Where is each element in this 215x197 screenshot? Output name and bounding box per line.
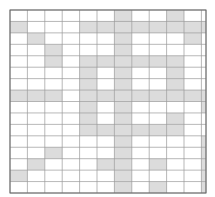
filled-cell	[167, 21, 184, 32]
filled-cell	[45, 147, 62, 158]
filled-cell	[149, 56, 166, 67]
filled-cell	[114, 102, 131, 113]
filled-cell	[132, 124, 149, 135]
filled-cell	[167, 10, 184, 21]
filled-cell	[97, 159, 114, 170]
filled-cell	[80, 102, 97, 113]
filled-cell	[201, 182, 206, 193]
filled-cell	[167, 113, 184, 124]
filled-cell	[149, 182, 166, 193]
puzzle-grid	[0, 0, 215, 197]
filled-cell	[45, 90, 62, 101]
filled-cell	[80, 56, 97, 67]
filled-cell	[114, 44, 131, 55]
filled-cell	[114, 159, 131, 170]
filled-cell	[27, 90, 44, 101]
filled-cell	[132, 56, 149, 67]
filled-cell	[114, 33, 131, 44]
filled-cell	[149, 21, 166, 32]
filled-cell	[80, 79, 97, 90]
filled-cell	[45, 56, 62, 67]
filled-cell	[149, 124, 166, 135]
filled-cell	[80, 90, 97, 101]
filled-cell	[149, 159, 166, 170]
filled-cell	[167, 124, 184, 135]
filled-cell	[10, 90, 27, 101]
filled-cell	[167, 67, 184, 78]
filled-cell	[114, 124, 131, 135]
filled-cell	[114, 170, 131, 181]
filled-cell	[167, 56, 184, 67]
filled-cell	[132, 90, 149, 101]
filled-cell	[201, 147, 206, 158]
filled-cell	[114, 182, 131, 193]
filled-cell	[114, 21, 131, 32]
filled-cell	[27, 159, 44, 170]
filled-cell	[80, 124, 97, 135]
filled-cell	[201, 159, 206, 170]
filled-cell	[97, 90, 114, 101]
filled-cell	[201, 170, 206, 181]
filled-cell	[114, 67, 131, 78]
filled-cell	[45, 44, 62, 55]
filled-cell	[114, 56, 131, 67]
filled-cell	[184, 90, 201, 101]
filled-cell	[80, 113, 97, 124]
filled-cell	[80, 67, 97, 78]
filled-cell	[114, 79, 131, 90]
filled-cell	[184, 21, 201, 32]
filled-cell	[80, 21, 97, 32]
filled-cell	[114, 136, 131, 147]
filled-cell	[10, 21, 27, 32]
filled-cell	[114, 113, 131, 124]
filled-cell	[149, 90, 166, 101]
filled-cell	[132, 21, 149, 32]
filled-cell	[201, 102, 206, 113]
filled-cell	[97, 21, 114, 32]
filled-cell	[97, 124, 114, 135]
filled-cell	[10, 170, 27, 181]
filled-cell	[201, 136, 206, 147]
filled-cell	[114, 90, 131, 101]
filled-cell	[167, 79, 184, 90]
filled-cell	[97, 56, 114, 67]
filled-cell	[184, 33, 201, 44]
filled-cell	[201, 90, 206, 101]
filled-cell	[114, 147, 131, 158]
filled-cell	[167, 90, 184, 101]
filled-cell	[27, 33, 44, 44]
filled-cell	[114, 10, 131, 21]
filled-cell	[201, 21, 206, 32]
